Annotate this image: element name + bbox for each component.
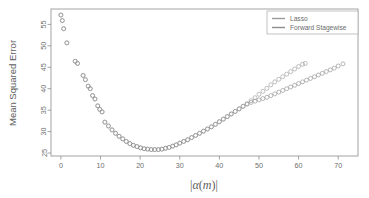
data-point xyxy=(100,110,104,114)
data-point xyxy=(182,139,186,143)
data-point xyxy=(217,120,221,124)
data-point xyxy=(194,133,198,137)
data-point xyxy=(59,13,63,17)
data-point xyxy=(233,109,237,113)
x-tick-label: 50 xyxy=(255,161,263,170)
x-tick-label: 10 xyxy=(97,161,105,170)
data-point xyxy=(106,124,110,128)
data-point xyxy=(186,138,190,142)
data-point xyxy=(265,95,269,99)
x-tick-label: 40 xyxy=(215,161,223,170)
data-point xyxy=(202,129,206,133)
data-point xyxy=(221,117,225,121)
data-point xyxy=(241,104,245,108)
data-point xyxy=(110,128,114,132)
data-point xyxy=(65,41,69,45)
data-point xyxy=(237,107,241,111)
data-point xyxy=(312,75,316,79)
data-point xyxy=(332,66,336,70)
data-point xyxy=(297,64,301,68)
y-axis-ticks: 25303540455055 xyxy=(40,20,52,157)
legend-label-lasso: Lasso xyxy=(290,15,308,22)
data-point xyxy=(277,77,281,81)
data-point xyxy=(285,72,289,76)
data-point xyxy=(289,70,293,74)
data-point xyxy=(257,92,261,96)
data-point xyxy=(81,73,85,77)
data-point xyxy=(316,73,320,77)
data-point xyxy=(273,80,277,84)
data-point xyxy=(297,82,301,86)
y-tick-label: 30 xyxy=(40,128,49,136)
svg-text:|α(m)|: |α(m)| xyxy=(190,178,218,192)
data-point xyxy=(341,62,345,66)
data-point xyxy=(301,80,305,84)
data-point xyxy=(277,90,281,94)
x-tick-label: 0 xyxy=(59,161,63,170)
data-point xyxy=(209,125,213,129)
data-point xyxy=(293,67,297,71)
data-point xyxy=(62,27,66,31)
data-point xyxy=(117,134,121,138)
data-point xyxy=(301,62,305,66)
data-point xyxy=(205,127,209,131)
data-point xyxy=(83,78,87,82)
y-tick-label: 25 xyxy=(40,149,49,157)
data-point xyxy=(73,59,77,63)
x-tick-label: 60 xyxy=(295,161,303,170)
x-tick-label: 20 xyxy=(136,161,144,170)
chart-figure: 010203040506070 25303540455055 Mean Squa… xyxy=(0,0,369,198)
data-point xyxy=(265,86,269,90)
data-point xyxy=(269,94,273,98)
y-tick-label: 45 xyxy=(40,63,49,71)
x-axis-title-bar-right: | xyxy=(215,178,217,192)
data-point xyxy=(324,70,328,74)
data-point xyxy=(190,136,194,140)
data-point xyxy=(320,71,324,75)
data-point xyxy=(225,115,229,119)
x-tick-label: 30 xyxy=(176,161,184,170)
y-tick-label: 40 xyxy=(40,85,49,93)
data-point xyxy=(281,88,285,92)
y-tick-label: 35 xyxy=(40,106,49,114)
data-point xyxy=(178,141,182,145)
x-axis-ticks: 010203040506070 xyxy=(59,156,342,170)
data-point xyxy=(336,64,340,68)
y-tick-label: 50 xyxy=(40,42,49,50)
data-point xyxy=(281,75,285,79)
data-point xyxy=(198,131,202,135)
data-point xyxy=(121,137,125,141)
data-point xyxy=(269,83,273,87)
legend: Lasso Forward Stagewise xyxy=(267,11,358,34)
data-point xyxy=(303,61,307,65)
x-tick-label: 70 xyxy=(334,161,342,170)
y-axis-title: Mean Squared Error xyxy=(7,40,18,126)
data-point xyxy=(305,78,309,82)
data-point xyxy=(285,87,289,91)
data-point xyxy=(213,122,217,126)
y-tick-label: 55 xyxy=(40,20,49,28)
data-point xyxy=(103,120,107,124)
mean-squared-error-scatter-plot: 010203040506070 25303540455055 Mean Squa… xyxy=(0,0,369,198)
data-point xyxy=(261,89,265,93)
data-point xyxy=(257,98,261,102)
data-point xyxy=(229,112,233,116)
data-point xyxy=(261,97,265,101)
legend-label-forward-stagewise: Forward Stagewise xyxy=(290,24,347,32)
data-point xyxy=(293,83,297,87)
data-point xyxy=(76,61,80,65)
x-axis-title: |α(m)| xyxy=(190,178,218,192)
data-point xyxy=(98,107,102,111)
data-point xyxy=(93,97,97,101)
data-point xyxy=(289,85,293,89)
data-point xyxy=(60,19,64,23)
data-point xyxy=(328,68,332,72)
data-point xyxy=(114,131,118,135)
data-point xyxy=(308,76,312,80)
x-axis-title-m: m xyxy=(203,178,212,192)
data-point xyxy=(273,92,277,96)
